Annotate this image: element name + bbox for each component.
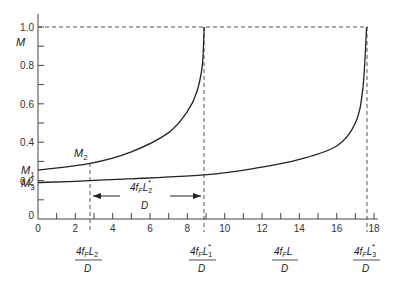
y-tick-label: 0.8 (20, 60, 34, 71)
y-tick-label: 0.6 (20, 99, 34, 110)
svg-text:4fFL3*: 4fFL3* (354, 242, 376, 258)
l2-fraction: 4fFL2 D (75, 246, 102, 274)
x-tick-label: 10 (219, 223, 231, 234)
x-tick-label: 14 (294, 223, 306, 234)
x-ticks: 024681012141618 (35, 213, 380, 234)
svg-text:D: D (141, 200, 148, 211)
chart: 00.20.40.60.81.0 024681012141618 M M1 M3… (0, 0, 397, 287)
y-tick-label: 0.4 (20, 137, 34, 148)
x-tick-label: 2 (73, 223, 79, 234)
x-tick-label: 0 (35, 223, 41, 234)
svg-text:D: D (362, 263, 369, 274)
y-axis-label: M (16, 36, 26, 48)
l-fraction: 4fFL D (272, 246, 298, 274)
svg-text:D: D (281, 263, 288, 274)
bottom-fraction-labels: 4fFL2 D 4fFL1* D 4fFL D 4fFL3* D (75, 242, 380, 274)
m2-label: M2 (74, 147, 88, 162)
y-tick-label: 1.0 (20, 22, 34, 33)
y-tick-label: 0 (28, 210, 34, 221)
x-tick-label: 4 (110, 223, 116, 234)
x-tick-label: 8 (185, 223, 191, 234)
l3-star-fraction: 4fFL3* D (353, 242, 380, 274)
svg-text:4fFL1*: 4fFL1* (190, 242, 212, 258)
svg-text:4fFL2*: 4fFL2* (130, 178, 152, 194)
axes (38, 14, 378, 219)
svg-text:D: D (84, 263, 91, 274)
x-tick-label: 6 (147, 223, 153, 234)
x-tick-label: 16 (331, 223, 343, 234)
x-tick-label: 18 (368, 223, 380, 234)
svg-text:D: D (198, 263, 205, 274)
x-tick-label: 12 (256, 223, 268, 234)
svg-text:4fFL: 4fFL (274, 246, 292, 258)
curve-m1 (38, 27, 204, 170)
l1-star-fraction: 4fFL1* D (189, 242, 216, 274)
svg-text:4fFL2: 4fFL2 (76, 246, 98, 258)
